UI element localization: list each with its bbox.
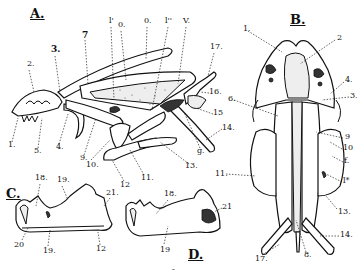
label-b-8: 8.	[304, 251, 312, 259]
label-a-17: 17.	[210, 43, 223, 51]
label-a-4: 4.	[56, 143, 64, 151]
label-a-v: V.	[183, 17, 190, 25]
label-d-18: 18.	[164, 190, 177, 198]
label-a-3: 3.	[51, 45, 60, 53]
label-b-3: 3.	[350, 92, 358, 100]
label-a-5: 5.	[34, 147, 42, 155]
label-c-18: 18.	[35, 174, 48, 182]
label-a-2: 2.	[27, 60, 35, 68]
label-b-f: f.	[344, 157, 349, 165]
label-d-21: 21	[222, 203, 232, 211]
label-a-14: 14.	[222, 124, 235, 132]
label-a-16: 16.	[209, 88, 222, 96]
figure-b-drawing	[226, 31, 349, 255]
label-d-19: 19	[160, 246, 170, 254]
label-a-l2: l''	[165, 17, 172, 25]
label-c-12: 12	[96, 245, 106, 253]
label-c-20: 20	[14, 241, 24, 249]
footer-mark: -	[172, 266, 175, 273]
label-a-12: 12	[120, 181, 130, 189]
label-b-9: 9	[345, 133, 350, 141]
label-a-11: 11.	[141, 174, 154, 182]
label-a-o1: 0.	[118, 21, 126, 29]
label-a-15: 15	[213, 109, 223, 117]
figure-b-title: B.	[290, 12, 306, 27]
label-b-17: 17.	[255, 255, 268, 263]
label-b-14: 14.	[340, 231, 353, 239]
label-b-l: l*	[343, 177, 350, 185]
label-a-1: 1.	[8, 141, 16, 149]
figure-a-drawing	[12, 27, 222, 181]
label-b-1: 1.	[243, 25, 251, 33]
label-b-11: 11.	[215, 170, 228, 178]
illustration-drawing	[0, 0, 359, 273]
label-c-19b: 19.	[43, 247, 56, 255]
anatomical-plate: A. B. C. D. 1. 2. 3. 4. 5. 7 9. 10. 11. …	[0, 0, 359, 273]
label-a-7: 7	[82, 31, 88, 39]
label-c-21: 21.	[106, 189, 119, 197]
label-b-4: 4.	[345, 76, 353, 84]
label-b-2: 2	[337, 34, 342, 42]
label-b-10: 10	[343, 144, 353, 152]
figure-c-drawing	[16, 184, 112, 246]
label-b-6: 6.	[228, 95, 236, 103]
figure-c-title: C.	[6, 186, 21, 201]
label-a-g: g.	[197, 147, 205, 155]
label-a-l1: l'	[109, 17, 114, 25]
label-a-10: 10.	[86, 161, 99, 169]
label-a-13: 13.	[185, 162, 198, 170]
figure-a-title: A.	[30, 6, 45, 21]
figure-d-title: D.	[188, 247, 203, 262]
label-b-13: 13.	[338, 208, 351, 216]
label-a-o2: 0.	[144, 17, 152, 25]
label-c-19a: 19.	[57, 176, 70, 184]
